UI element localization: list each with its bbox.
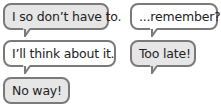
bubble-text: I so don’t have to. (12, 9, 121, 24)
bubble-text: I’ll think about it. (12, 46, 114, 61)
speech-tail-icon (149, 65, 159, 74)
speech-bubble-1: I so don’t have to. (3, 3, 109, 30)
speech-tail-icon (22, 28, 32, 37)
speech-tail-icon (149, 28, 159, 37)
speech-bubble-3: I’ll think about it. (3, 40, 116, 67)
speech-bubble-5: No way! (3, 77, 70, 104)
speech-bubble-2: ...remember? (130, 3, 218, 30)
speech-bubble-4: Too late! (130, 40, 196, 67)
speech-tail-icon (22, 65, 32, 74)
bubble-text: No way! (12, 83, 62, 98)
bubble-text: ...remember? (139, 9, 221, 24)
bubble-text: Too late! (139, 46, 191, 61)
